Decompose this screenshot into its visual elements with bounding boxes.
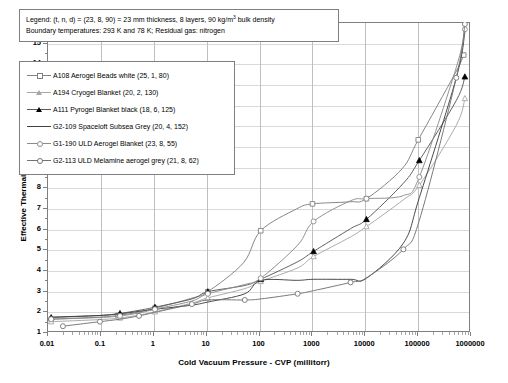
data-point [364,224,369,229]
note-line-1: Legend: (t, n, d) = (23, 8, 90) = 23 mm … [26,14,332,26]
data-point [137,313,142,318]
legend-marker-icon [26,104,52,115]
data-point [348,280,353,285]
note-line-2: Boundary temperatures: 293 K and 78 K; R… [26,26,332,37]
legend-marker-icon [26,155,52,166]
data-point [205,291,210,296]
data-point [311,248,317,253]
data-point [189,302,194,307]
data-point [401,247,406,252]
data-point [60,324,65,329]
legend-item-4[interactable]: G1-190 ULD Aerogel Blanket (23, 8, 55) [26,135,230,152]
data-point [462,74,468,79]
legend-item-3[interactable]: G2-109 Spaceloft Subsea Grey (20, 4, 152… [26,118,230,135]
data-point [416,157,422,162]
data-point [311,219,316,224]
legend-item-0[interactable]: A108 Aerogel Beads white (25, 1, 80) [26,67,230,84]
legend-item-2[interactable]: A111 Pyrogel Blanket black (18, 6, 125) [26,101,230,118]
legend-label: A108 Aerogel Beads white (25, 1, 80) [52,72,169,79]
data-point [310,202,315,207]
legend-item-5[interactable]: G2-113 ULD Melamine aerogel grey (21, 8,… [26,152,230,169]
legend-label: G2-109 Spaceloft Subsea Grey (20, 4, 152… [52,123,188,130]
legend-label: G2-113 ULD Melamine aerogel grey (21, 8,… [52,157,199,164]
legend-label: G1-190 ULD Aerogel Blanket (23, 8, 55) [52,140,177,147]
series-legend: A108 Aerogel Beads white (25, 1, 80)A194… [19,61,235,175]
data-point [117,313,122,318]
data-point [462,96,467,101]
legend-label: A194 Cryogel Blanket (20, 2, 130) [52,89,158,96]
legend-marker-icon [26,121,52,132]
legend-marker-icon [26,70,52,81]
data-point [242,297,247,302]
data-point [49,317,54,322]
data-point [417,175,422,180]
data-point [454,75,459,80]
data-point [97,319,102,324]
data-point [311,254,316,259]
data-point [152,307,157,312]
data-point [364,196,369,201]
legend-marker-icon [26,87,52,98]
x-axis-title: Cold Vacuum Pressure - CVP (millitorr) [0,358,508,367]
data-series-layer [0,0,508,383]
legend-marker-icon [26,138,52,149]
legend-label: A111 Pyrogel Blanket black (18, 6, 125) [52,106,175,113]
data-point [295,291,300,296]
data-point [258,228,263,233]
data-point [258,276,263,281]
data-point [462,22,467,27]
thermal-conductivity-chart: Effective Thermal Conductivity - ke (mW/… [0,0,508,383]
legend-item-1[interactable]: A194 Cryogel Blanket (20, 2, 130) [26,84,230,101]
data-point [416,138,421,143]
note-box: Legend: (t, n, d) = (23, 8, 90) = 23 mm … [19,9,339,42]
